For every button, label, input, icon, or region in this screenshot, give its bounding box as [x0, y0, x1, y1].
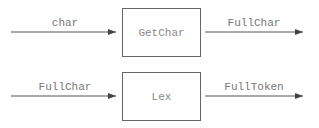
label-char: char — [52, 17, 78, 29]
diagram-canvas: char GetChar FullChar FullChar Lex FullT… — [0, 0, 319, 128]
label-fullchar-out: FullChar — [228, 17, 281, 29]
label-fulltoken: FullToken — [224, 81, 283, 93]
process-box-getchar: GetChar — [122, 8, 201, 57]
process-box-lex: Lex — [122, 72, 201, 121]
label-fullchar-in: FullChar — [39, 81, 92, 93]
process-label: Lex — [152, 91, 172, 103]
process-label: GetChar — [138, 27, 184, 39]
